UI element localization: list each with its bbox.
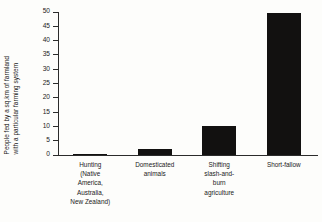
x-axis-category-label: Shifting slash-and- burn agriculture	[187, 160, 252, 218]
x-axis-category-label: Domesticated animals	[123, 160, 188, 218]
bar[interactable]	[73, 154, 107, 155]
plot-area	[58, 12, 316, 155]
x-axis-category-labels: Hunting (Native America, Australia, New …	[58, 160, 316, 218]
y-axis-title-line-2: with a particular farming system	[13, 63, 19, 154]
bar[interactable]	[202, 126, 236, 155]
y-axis-title: People fed by a sq.km of farmland with a…	[0, 0, 36, 160]
bar-chart-figure: People fed by a sq.km of farmland with a…	[0, 0, 322, 222]
x-axis-category-label: Short-fallow	[252, 160, 317, 218]
bar[interactable]	[267, 13, 301, 155]
y-axis-title-line-1: People fed by a sq.km of farmland	[4, 55, 10, 154]
x-axis-line	[56, 155, 318, 156]
bar[interactable]	[138, 149, 172, 155]
x-axis-category-label: Hunting (Native America, Australia, New …	[58, 160, 123, 218]
